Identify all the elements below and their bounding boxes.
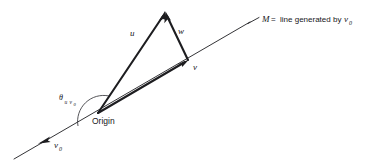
- caption-text: line generated by: [280, 15, 341, 24]
- theta-symbol: θ: [59, 93, 63, 102]
- vector-w-label: w: [178, 26, 184, 36]
- vector-v0-subscript: 0: [59, 146, 62, 152]
- vector-v-label: v: [193, 62, 197, 72]
- origin-label: Origin: [92, 116, 115, 126]
- vector-v0-base: v: [54, 140, 58, 150]
- caption-line-name: M: [261, 14, 270, 24]
- caption-vector-subscript: 0: [349, 20, 352, 26]
- figure-canvas: θ u v 0 Origin u w v v 0 M = line genera…: [0, 0, 365, 166]
- vector-v0-label: v 0: [54, 140, 62, 152]
- line-m: [14, 22, 250, 159]
- theta-subscript-v-zero: 0: [74, 102, 77, 107]
- caption-equals: =: [271, 15, 276, 24]
- vector-v-shaft: [98, 62, 185, 113]
- vector-u-label: u: [130, 28, 135, 38]
- theta-subscript-u: u: [65, 99, 68, 105]
- line-m-leader: [248, 18, 259, 24]
- theta-subscript-v: v: [70, 99, 73, 105]
- angle-label-theta: θ u v 0: [59, 93, 77, 107]
- vector-projection-figure: θ u v 0 Origin u w v v 0 M = line genera…: [0, 0, 365, 166]
- caption-vector-base: v: [344, 14, 348, 24]
- vector-v0-arrowhead: [38, 136, 51, 143]
- vector-w-shaft: [167, 16, 188, 60]
- line-m-caption: M = line generated by v 0: [261, 14, 352, 26]
